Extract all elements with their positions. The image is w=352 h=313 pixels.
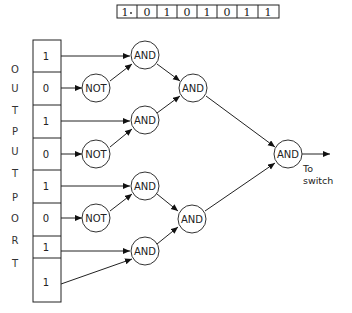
svg-text:T: T bbox=[11, 258, 19, 269]
port-bit: 0 bbox=[43, 213, 49, 224]
and-gate-5: AND bbox=[179, 74, 207, 102]
svg-text:NOT: NOT bbox=[85, 83, 107, 94]
svg-text:O: O bbox=[11, 213, 19, 224]
top-bit: 1 bbox=[204, 6, 211, 19]
and-gate-1: AND bbox=[131, 41, 159, 69]
and-gate-final: AND bbox=[274, 140, 302, 168]
svg-text:NOT: NOT bbox=[85, 149, 107, 160]
not-gate: NOT bbox=[82, 140, 110, 168]
svg-text:P: P bbox=[12, 192, 18, 203]
svg-text:AND: AND bbox=[134, 50, 156, 61]
port-bit: 1 bbox=[43, 242, 49, 253]
output-port-label: O U T P U T P O R T bbox=[11, 64, 19, 269]
and-gate-6: AND bbox=[178, 205, 206, 233]
top-bit: 1 bbox=[164, 6, 171, 19]
svg-text:U: U bbox=[11, 146, 18, 157]
svg-text:AND: AND bbox=[182, 83, 204, 94]
logic-diagram: 1 0 1 0 1 0 1 1 O U T P U T P O R T 1 0 … bbox=[0, 0, 352, 313]
and-gate-3: AND bbox=[131, 172, 159, 200]
and-gate-4: AND bbox=[131, 237, 159, 265]
svg-text:O: O bbox=[11, 64, 19, 75]
top-bit: 0 bbox=[184, 6, 191, 19]
port-bit: 0 bbox=[43, 149, 49, 160]
svg-text:AND: AND bbox=[277, 149, 299, 160]
svg-text:NOT: NOT bbox=[85, 213, 107, 224]
output-port-register: 1 0 1 0 1 0 1 1 bbox=[33, 40, 61, 302]
top-bit: 1 bbox=[265, 6, 272, 19]
not-gate: NOT bbox=[82, 204, 110, 232]
top-bit: 1 bbox=[244, 6, 251, 19]
top-bit: 0 bbox=[224, 6, 231, 19]
svg-text:T: T bbox=[11, 105, 19, 116]
port-bit: 1 bbox=[43, 181, 49, 192]
svg-text:R: R bbox=[12, 235, 19, 246]
svg-text:P: P bbox=[12, 126, 18, 137]
and-gate-2: AND bbox=[131, 106, 159, 134]
svg-text:T: T bbox=[11, 168, 19, 179]
output-note-switch: switch bbox=[303, 175, 333, 186]
svg-text:AND: AND bbox=[134, 246, 156, 257]
top-bit: 1 bbox=[122, 6, 129, 19]
port-bit: 1 bbox=[43, 116, 49, 127]
svg-text:AND: AND bbox=[134, 115, 156, 126]
output-note-to: To bbox=[302, 163, 313, 174]
svg-text:AND: AND bbox=[134, 181, 156, 192]
top-register: 1 0 1 0 1 0 1 1 bbox=[117, 5, 279, 19]
port-bit: 0 bbox=[43, 83, 49, 94]
top-bit: 0 bbox=[144, 6, 151, 19]
radix-point bbox=[130, 12, 132, 14]
svg-text:U: U bbox=[11, 83, 18, 94]
port-bit: 1 bbox=[43, 51, 49, 62]
port-bit: 1 bbox=[43, 277, 49, 288]
svg-text:AND: AND bbox=[181, 214, 203, 225]
not-gate: NOT bbox=[82, 74, 110, 102]
